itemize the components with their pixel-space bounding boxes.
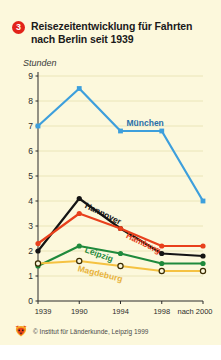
data-point-marker — [159, 261, 164, 266]
y-tick-label: 8 — [28, 96, 33, 106]
y-tick-label: 2 — [28, 246, 33, 256]
fox-logo-icon — [14, 324, 28, 338]
data-point-marker — [77, 243, 82, 248]
figure-footer: © Institut für Länderkunde, Leipzig 1999 — [14, 324, 148, 338]
data-point-marker — [159, 268, 164, 273]
data-point-marker — [200, 243, 205, 248]
line-chart-svg: 0123456789 1939199019941998nach 2000 Mün… — [0, 0, 221, 345]
data-point-marker — [77, 196, 82, 201]
y-tick-label: 1 — [28, 271, 33, 281]
data-point-marker — [35, 241, 40, 246]
data-point-marker — [200, 253, 205, 258]
y-tick-label: 7 — [28, 121, 33, 131]
y-tick-label: 9 — [28, 71, 33, 81]
y-tick-label: 6 — [28, 146, 33, 156]
y-tick-label: 0 — [28, 296, 33, 306]
x-tick-label: 1994 — [112, 307, 129, 316]
x-tick-label: 1998 — [153, 307, 170, 316]
series-label-hamburg: Hamburg — [125, 230, 163, 255]
data-point-marker — [35, 248, 40, 253]
x-tick-label: 1990 — [71, 307, 88, 316]
data-point-marker — [118, 263, 123, 268]
data-point-marker — [201, 199, 206, 204]
data-point-marker — [36, 124, 41, 129]
infographic-figure: 3 Reisezeitentwicklung für Fahrten nach … — [0, 0, 221, 345]
series-line-münchen — [38, 89, 203, 202]
data-point-marker — [118, 226, 123, 231]
chart-plot-area: 0123456789 1939199019941998nach 2000 Mün… — [0, 0, 221, 345]
data-point-marker — [77, 211, 82, 216]
data-point-marker — [35, 261, 40, 266]
data-point-marker — [159, 129, 164, 134]
y-tick-label: 4 — [28, 196, 33, 206]
series-label-münchen: München — [127, 118, 164, 128]
data-point-marker — [118, 251, 123, 256]
series-lines-group — [38, 89, 203, 272]
x-tick-label: nach 2000 — [177, 307, 212, 316]
data-point-marker — [77, 86, 82, 91]
y-tick-label: 5 — [28, 171, 33, 181]
data-point-marker — [200, 268, 205, 273]
x-tick-label: 1939 — [35, 307, 52, 316]
copyright-credit: © Institut für Länderkunde, Leipzig 1999 — [33, 328, 148, 335]
x-tick-labels-group: 1939199019941998nach 2000 — [35, 307, 213, 316]
y-tick-label: 3 — [28, 221, 33, 231]
data-point-marker — [118, 129, 123, 134]
data-point-marker — [200, 261, 205, 266]
y-tick-labels-group: 0123456789 — [28, 71, 33, 306]
